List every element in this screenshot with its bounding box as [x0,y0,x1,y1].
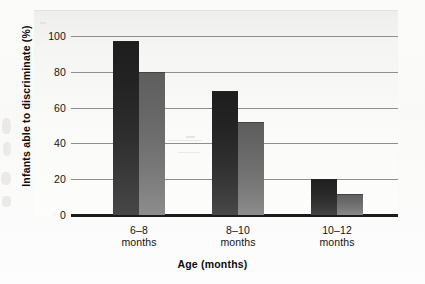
scan-artifact [2,118,11,134]
xtick-label-cat2-line1: 8–10 [226,224,250,236]
bar-top-edge [113,41,139,42]
xtick-label-cat1: 6–8 months [99,225,179,248]
bar-series2-cat1 [139,72,165,215]
bar-top-edge [238,122,264,123]
bar-top-edge [212,91,238,92]
bar-series1-cat1 [113,41,139,215]
scan-artifact [1,172,11,185]
xtick-label-cat3-line2: months [297,237,377,249]
xtick-label-cat1-line2: months [99,237,179,249]
ytick-label-20: 20 [36,173,66,185]
ytick-label-0: 0 [36,209,66,221]
ytick-mark [71,72,78,73]
bar-top-edge [311,179,337,180]
ytick-mark [71,179,78,180]
ytick-mark [71,108,78,109]
scan-speckle [178,152,200,153]
gridline-100 [77,36,398,37]
bar-series1-cat3 [311,179,337,215]
bar-top-edge [139,72,165,73]
xtick-label-cat2-line2: months [198,237,278,249]
figure-page: 100 80 60 40 20 0 Infants able to discri… [0,0,425,284]
xtick-label-cat2: 8–10 months [198,225,278,248]
ytick-label-80: 80 [36,66,66,78]
x-axis-title: Age (months) [0,258,425,270]
ytick-mark [71,36,78,37]
xtick-label-cat3-line1: 10–12 [322,224,352,236]
xtick-label-cat3: 10–12 months [297,225,377,248]
ytick-label-100: 100 [36,30,66,42]
scan-artifact [3,142,11,156]
y-axis-tick-labels: 100 80 60 40 20 0 [32,0,66,284]
ytick-mark [71,143,78,144]
ytick-label-60: 60 [36,102,66,114]
scan-artifact [2,196,11,207]
ytick-label-40: 40 [36,137,66,149]
bar-series2-cat2 [238,122,264,215]
y-axis-title: Infants able to discriminate (%) [20,16,32,196]
scan-speckle [168,140,202,141]
bar-top-edge [337,194,363,195]
bar-series1-cat2 [212,91,238,215]
bar-series2-cat3 [337,194,363,215]
xtick-label-cat1-line1: 6–8 [130,224,148,236]
scan-speckle [186,136,195,138]
scan-speckle [40,22,46,24]
